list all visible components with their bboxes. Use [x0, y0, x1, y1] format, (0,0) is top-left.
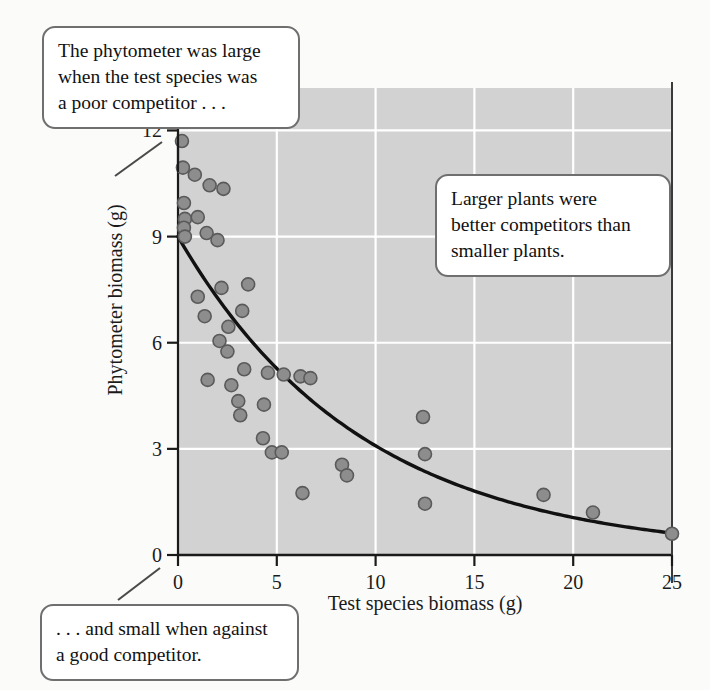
scatter-point — [234, 409, 247, 422]
scatter-point — [191, 211, 204, 224]
callout-leader-line — [118, 568, 160, 600]
scatter-point — [222, 320, 235, 333]
scatter-point — [586, 506, 599, 519]
scatter-point — [201, 373, 214, 386]
scatter-point — [419, 448, 432, 461]
x-tick-label: 0 — [173, 572, 183, 592]
y-tick-label: 0 — [128, 545, 162, 565]
scatter-point — [215, 281, 228, 294]
scatter-point — [238, 363, 251, 376]
annotation-top-line-3: a poor competitor . . . — [58, 90, 285, 116]
annotation-callout-top: The phytometer was large when the test s… — [42, 26, 300, 129]
scatter-point — [419, 497, 432, 510]
annotation-bottom-line-2: a good competitor. — [56, 642, 284, 668]
x-tick-label: 25 — [662, 572, 682, 592]
x-tick-label: 10 — [366, 572, 386, 592]
scatter-point — [211, 234, 224, 247]
scatter-point — [304, 372, 317, 385]
scatter-point — [232, 395, 245, 408]
annotation-callout-bottom: . . . and small when against a good comp… — [40, 604, 299, 681]
scatter-point — [236, 304, 249, 317]
scatter-point — [178, 230, 191, 243]
scatter-point — [275, 446, 288, 459]
annotation-bottom-line-1: . . . and small when against — [56, 616, 284, 642]
annotation-top-line-2: when the test species was — [58, 64, 285, 90]
scatter-point — [340, 469, 353, 482]
annotation-top-line-1: The phytometer was large — [58, 38, 285, 64]
scatter-point — [198, 310, 211, 323]
plot-area-background — [178, 88, 672, 555]
scatter-point — [417, 411, 430, 424]
y-tick-label: 3 — [128, 439, 162, 459]
annotation-right-line-2: better competitors than — [451, 212, 656, 238]
scatter-point — [217, 182, 230, 195]
scatter-point — [191, 290, 204, 303]
figure-container: 0510152025 036912 Test species biomass (… — [0, 0, 710, 690]
scatter-point — [257, 398, 270, 411]
scatter-point — [277, 368, 290, 381]
x-tick-label: 5 — [272, 572, 282, 592]
x-tick-label: 15 — [464, 572, 484, 592]
scatter-point — [666, 527, 679, 540]
y-tick-label: 6 — [128, 333, 162, 353]
annotation-right-line-3: smaller plants. — [451, 238, 656, 264]
annotation-right-line-1: Larger plants were — [451, 186, 656, 212]
scatter-point — [296, 487, 309, 500]
scatter-point — [221, 345, 234, 358]
scatter-point — [256, 432, 269, 445]
x-tick-label: 20 — [563, 572, 583, 592]
scatter-point — [537, 488, 550, 501]
scatter-point — [177, 196, 190, 209]
scatter-point — [242, 278, 255, 291]
scatter-point — [261, 366, 274, 379]
annotation-callout-right: Larger plants were better competitors th… — [435, 174, 671, 277]
scatter-point — [188, 168, 201, 181]
scatter-point — [203, 179, 216, 192]
y-axis-title: Phytometer biomass (g) — [104, 90, 127, 510]
y-tick-label: 9 — [128, 227, 162, 247]
scatter-point — [225, 379, 238, 392]
